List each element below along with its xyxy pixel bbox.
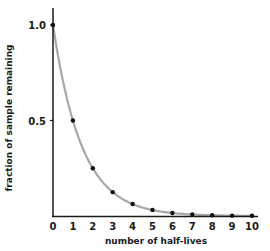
x-axis-label: number of half-lives — [105, 236, 207, 246]
axes — [52, 8, 258, 217]
data-point — [250, 214, 254, 218]
x-tick-label: 0 — [50, 221, 57, 232]
data-point — [230, 213, 234, 217]
x-tick-label: 6 — [169, 221, 176, 232]
x-tick-label: 3 — [109, 221, 116, 232]
x-tick-label: 2 — [89, 221, 96, 232]
y-tick-label: 1.0 — [28, 20, 46, 31]
data-point — [71, 118, 75, 122]
x-tick-label: 9 — [229, 221, 236, 232]
y-tick-label: 0.5 — [28, 116, 46, 127]
x-tick-label: 5 — [149, 221, 156, 232]
x-tick-labels: 012345678910 — [50, 221, 259, 232]
data-point — [91, 166, 95, 170]
decay-curve — [53, 25, 252, 216]
x-tick-label: 7 — [189, 221, 196, 232]
data-point — [210, 213, 214, 217]
y-axis-label: fraction of sample remaining — [4, 44, 14, 191]
data-point — [190, 212, 194, 216]
x-tick-label: 10 — [245, 221, 259, 232]
decay-curve-line — [53, 25, 252, 216]
x-tick-label: 1 — [69, 221, 76, 232]
data-points — [51, 23, 254, 218]
x-tick-label: 4 — [129, 221, 136, 232]
data-point — [150, 208, 154, 212]
data-point — [130, 202, 134, 206]
x-tick-label: 8 — [209, 221, 216, 232]
data-point — [170, 211, 174, 215]
decay-chart: 012345678910 0.51.0 number of half-lives… — [0, 0, 270, 251]
y-tick-labels: 0.51.0 — [28, 20, 53, 127]
data-point — [111, 190, 115, 194]
